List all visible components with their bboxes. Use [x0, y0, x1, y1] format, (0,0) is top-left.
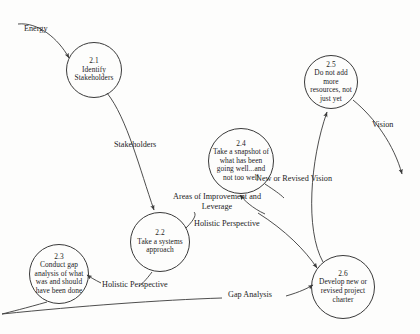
edge-label-areas-of-improvement: Areas of Improvement and Leverage [160, 192, 274, 211]
edge-label-vision: Vision [372, 120, 393, 130]
process-node-2-3[interactable]: 2.3 Conduct gap analysis of what was and… [29, 244, 89, 304]
edge-label-energy: Energy [24, 24, 48, 34]
edge-gap-analysis [2, 298, 222, 314]
process-node-2-6[interactable]: 2.6 Develop new or revised project chart… [311, 255, 375, 319]
process-node-2-2[interactable]: 2.2 Take a systems approach [130, 212, 190, 272]
edge-vision [353, 100, 402, 174]
process-node-2-5-label: Do not add more resources, not just yet [305, 69, 357, 103]
edge-stakeholders [107, 93, 154, 210]
process-node-2-3-label: Conduct gap analysis of what was and sho… [30, 261, 88, 295]
edge-label-holistic-perspective-2-4: Holistic Perspective [194, 219, 260, 229]
process-node-2-6-label: Develop new or revised project charter [312, 278, 374, 304]
process-node-2-1-label: Identify Stakeholders [67, 66, 121, 83]
edge-gap-analysis-head [286, 285, 313, 296]
edge-label-new-or-revised-vision: New or Revised Vision [256, 174, 332, 184]
process-node-2-1[interactable]: 2.1 Identify Stakeholders [66, 42, 122, 98]
edge-label-gap-analysis: Gap Analysis [228, 290, 272, 300]
diagram-canvas: 2.1 Identify Stakeholders 2.2 Take a sys… [0, 0, 420, 334]
edge-new-or-revised-vision [312, 112, 327, 262]
edge-gap-analysis-tail [2, 302, 47, 314]
edge-areas-of-improvement [258, 213, 317, 268]
process-node-2-4[interactable]: 2.4 Take a snapshot of what has been goi… [208, 128, 274, 194]
process-node-2-5[interactable]: 2.5 Do not add more resources, not just … [304, 55, 358, 109]
edge-label-holistic-perspective-2-3: Holistic Perspective [102, 280, 168, 290]
process-node-2-2-label: Take a systems approach [131, 238, 189, 255]
edge-label-stakeholders: Stakeholders [114, 140, 156, 150]
edge-holistic-perspective-2-3 [87, 275, 101, 283]
